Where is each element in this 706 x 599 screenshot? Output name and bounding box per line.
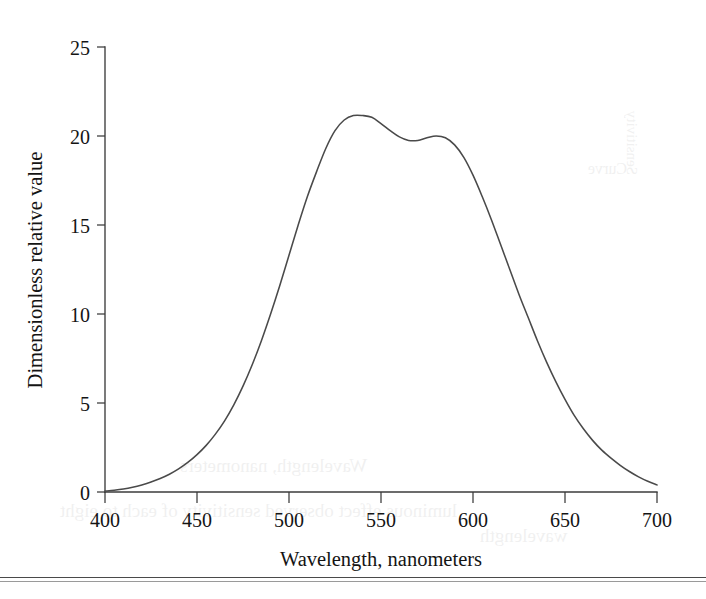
y-tick-label-5: 5 bbox=[80, 393, 90, 415]
y-axis-group: 25 20 15 10 5 0 bbox=[70, 37, 105, 504]
y-tick-label-0: 0 bbox=[80, 482, 90, 504]
x-axis-group: 400 450 500 550 600 650 700 bbox=[90, 492, 672, 531]
y-axis-title: Dimensionless relative value bbox=[24, 152, 46, 389]
x-axis-title: Wavelength, nanometers bbox=[280, 548, 482, 571]
y-tick-label-20: 20 bbox=[70, 126, 90, 148]
page-divider-rule-secondary bbox=[0, 581, 706, 582]
page-divider-rule bbox=[0, 577, 706, 578]
spectral-curve bbox=[105, 115, 657, 491]
x-tick-label-550: 550 bbox=[366, 509, 396, 531]
x-tick-label-650: 650 bbox=[550, 509, 580, 531]
spectral-response-chart: 25 20 15 10 5 0 400 450 500 550 600 650 … bbox=[0, 0, 706, 599]
x-tick-label-450: 450 bbox=[182, 509, 212, 531]
y-tick-label-15: 15 bbox=[70, 215, 90, 237]
x-tick-label-400: 400 bbox=[90, 509, 120, 531]
figure-container: Wavelength, nanometers luminous effect o… bbox=[0, 0, 706, 599]
y-tick-label-25: 25 bbox=[70, 37, 90, 59]
x-tick-label-600: 600 bbox=[458, 509, 488, 531]
x-tick-label-700: 700 bbox=[642, 509, 672, 531]
x-tick-label-500: 500 bbox=[274, 509, 304, 531]
y-tick-label-10: 10 bbox=[70, 304, 90, 326]
